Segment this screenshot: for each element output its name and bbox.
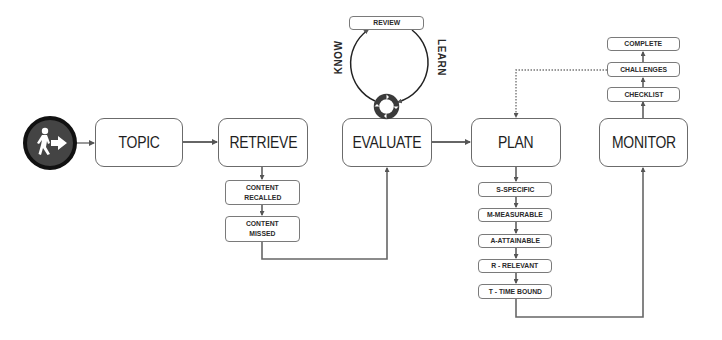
monitor-label: COMPLETE	[625, 39, 663, 49]
step-retrieve-label: RETRIEVE	[229, 133, 297, 153]
step-topic[interactable]: TOPIC	[95, 118, 183, 167]
step-plan-label: PLAN	[498, 133, 533, 153]
substep-line: RECALLED	[244, 193, 281, 203]
substep-content-missed[interactable]: CONTENT MISSED	[225, 216, 300, 242]
monitor-checklist[interactable]: CHECKLIST	[607, 87, 680, 102]
smart-label: M-MEASURABLE	[487, 210, 543, 220]
start-icon	[23, 116, 77, 170]
step-monitor[interactable]: MONITOR	[599, 118, 688, 167]
smart-time-bound[interactable]: T - TIME BOUND	[478, 284, 552, 299]
smart-relevant[interactable]: R - RELEVANT	[478, 259, 552, 273]
substep-line: CONTENT	[246, 183, 279, 193]
smart-label: S-SPECIFIC	[496, 185, 534, 195]
smart-attainable[interactable]: A-ATTAINABLE	[478, 234, 552, 248]
smart-specific[interactable]: S-SPECIFIC	[478, 182, 552, 197]
cycle-learn-label: LEARN	[436, 39, 447, 76]
substep-line: CONTENT	[246, 219, 279, 229]
smart-label: T - TIME BOUND	[488, 287, 541, 297]
substep-line: MISSED	[249, 229, 275, 239]
connectors	[0, 0, 722, 340]
smart-label: A-ATTAINABLE	[490, 236, 540, 246]
learning-flow-diagram: TOPIC RETRIEVE EVALUATE PLAN MONITOR CON…	[0, 0, 722, 340]
step-evaluate[interactable]: EVALUATE	[342, 118, 432, 167]
monitor-complete[interactable]: COMPLETE	[607, 37, 680, 51]
smart-measurable[interactable]: M-MEASURABLE	[478, 208, 552, 222]
cycle-review[interactable]: REVIEW	[349, 16, 424, 30]
monitor-label: CHALLENGES	[620, 65, 667, 75]
step-plan[interactable]: PLAN	[471, 118, 561, 167]
cycle-know-label: KNOW	[333, 41, 344, 75]
step-retrieve[interactable]: RETRIEVE	[218, 118, 308, 167]
step-topic-label: TOPIC	[118, 133, 159, 153]
step-monitor-label: MONITOR	[612, 133, 676, 153]
substep-content-recalled[interactable]: CONTENT RECALLED	[225, 180, 300, 205]
monitor-label: CHECKLIST	[624, 90, 663, 100]
cycle-icon	[373, 93, 400, 120]
step-evaluate-label: EVALUATE	[353, 133, 422, 153]
cycle-review-label: REVIEW	[373, 18, 400, 28]
smart-label: R - RELEVANT	[491, 261, 538, 271]
monitor-challenges[interactable]: CHALLENGES	[607, 62, 680, 77]
